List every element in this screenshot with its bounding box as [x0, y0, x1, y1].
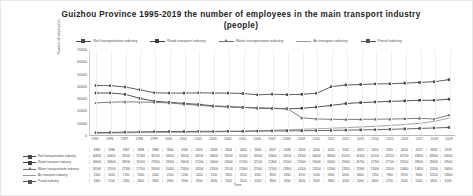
table-header-cell: 2005 [235, 148, 250, 152]
legend-item-1[interactable]: Rail transportation industry [76, 38, 137, 45]
table-cell: 13800 [411, 167, 426, 171]
grid-line [435, 50, 436, 135]
grid-line [391, 50, 392, 135]
table-header-cell: 2010 [309, 148, 324, 152]
table-cell: 25900 [338, 160, 353, 164]
table-cell: 29500 [440, 160, 455, 164]
table-cell: 37200 [133, 154, 148, 158]
legend-marker [28, 161, 32, 165]
table-cell: 11200 [426, 173, 441, 177]
legend-label: Postal industry [378, 39, 402, 43]
x-tick-label: 2018 [431, 137, 438, 141]
grid-line [362, 50, 363, 135]
plot-grid [89, 50, 455, 136]
x-tick-label: 2004 [224, 137, 231, 141]
table-cell: 1500 [89, 173, 104, 177]
legend-swatch [219, 38, 234, 45]
table-cell: 5100 [309, 173, 324, 177]
table-header-cell: 2011 [323, 148, 338, 152]
x-tick-label: 2010 [313, 137, 320, 141]
grid-line [244, 50, 245, 135]
table-row-name: Water transportation industry [38, 167, 79, 171]
x-tick-label: 2007 [268, 137, 275, 141]
table-cell: 23100 [221, 167, 236, 171]
table-cell: 13100 [426, 167, 441, 171]
y-tick-label: 10000 [63, 122, 87, 126]
table-cell: 7900 [382, 173, 397, 177]
legend-marker [28, 167, 32, 170]
chart-title: Guizhou Province 1995-2019 the number of… [56, 9, 426, 31]
x-tick-label: 2008 [283, 137, 290, 141]
legend-item-3[interactable]: Water transportation industry [219, 38, 283, 45]
grid-line [170, 50, 171, 135]
legend-marker [366, 39, 370, 43]
y-tick-label: 30000 [63, 97, 87, 101]
table-row-label: Air transport industry [23, 172, 89, 178]
table-header-cell: 2002 [191, 148, 206, 152]
legend-item-2[interactable]: Road transport industry [150, 38, 206, 45]
legend-item-4[interactable]: Air transport industry [296, 38, 347, 45]
table-cell: 6000 [338, 173, 353, 177]
legend-label: Water transportation industry [236, 39, 283, 43]
table-row-swatch [23, 153, 36, 159]
table-cell: 28600 [411, 160, 426, 164]
grid-line [140, 50, 141, 135]
grid-line [199, 50, 200, 135]
grid-line [406, 50, 407, 135]
table-cell: 39800 [323, 154, 338, 158]
table-cell: 41600 [353, 154, 368, 158]
table-cell: 34600 [206, 154, 221, 158]
table-cell: 3900 [265, 173, 280, 177]
grid-line [450, 50, 451, 135]
table-header-cell: 2006 [250, 148, 265, 152]
chart-card: Guizhou Province 1995-2019 the number of… [0, 0, 473, 196]
table-cell: 2800 [221, 173, 236, 177]
table-header-cell: 2003 [206, 148, 221, 152]
grid-line [214, 50, 215, 135]
data-table: 1995199619971998199920002001200220032004… [23, 147, 455, 180]
table-cell: 43900 [426, 154, 441, 158]
table-cell: 27700 [382, 160, 397, 164]
table-cell: 2400 [191, 173, 206, 177]
table-row-name: Air transport industry [38, 173, 67, 177]
legend-marker [224, 39, 228, 42]
y-tick-label: 60000 [63, 60, 87, 64]
table-cell: 33200 [279, 154, 294, 158]
table-cell: 13400 [396, 167, 411, 171]
table-cell: 1600 [104, 173, 119, 177]
x-tick-label: 1996 [106, 137, 113, 141]
table-row-label: Rail transportation industry [23, 153, 89, 159]
grid-line [347, 50, 348, 135]
table-cell: 26500 [89, 167, 104, 171]
x-tick-label: 2013 [357, 137, 364, 141]
table-header-cell: 1998 [133, 148, 148, 152]
legend-swatch [76, 38, 91, 45]
table-cell: 1900 [133, 173, 148, 177]
table-cell: 25300 [177, 167, 192, 171]
table-cell: 42100 [367, 154, 382, 158]
legend-item-5[interactable]: Postal industry [361, 38, 402, 45]
table-row-name: Rail transportation industry [38, 154, 76, 158]
x-tick-label: 2012 [342, 137, 349, 141]
table-header-cell: 2019 [440, 148, 455, 152]
table-cell: 21500 [279, 160, 294, 164]
table-cell: 27800 [148, 160, 163, 164]
x-axis-ticks: 1995199619971998199920002001200220032004… [89, 137, 455, 144]
legend-marker [81, 39, 85, 43]
table-cell: 22300 [250, 167, 265, 171]
x-tick-label: 2003 [209, 137, 216, 141]
table-cell: 13200 [309, 167, 324, 171]
table-cell: 40600 [104, 154, 119, 158]
table-cell: 24000 [206, 160, 221, 164]
legend-label: Road transport industry [167, 39, 206, 43]
table-cell: 21800 [279, 167, 294, 171]
x-tick-label: 1995 [91, 137, 98, 141]
legend-line [296, 41, 311, 42]
table-cell: 8700 [396, 173, 411, 177]
table-cell: 16400 [440, 167, 455, 171]
legend-swatch [150, 38, 165, 45]
table-cell: 2200 [177, 173, 192, 177]
table-header-cell: 2007 [265, 148, 280, 152]
table-cell: 33500 [294, 154, 309, 158]
y-tick-label: 0 [63, 134, 87, 138]
